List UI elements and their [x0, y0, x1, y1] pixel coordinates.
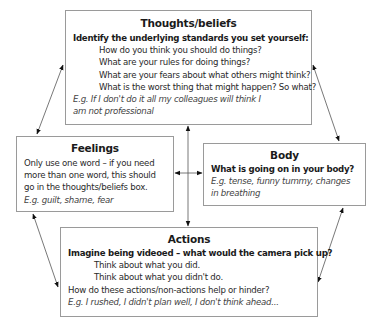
actions-box: Actions Imagine being videoed – what wou…	[60, 227, 318, 317]
thoughts-question: What is the worst thing that might happe…	[73, 81, 311, 93]
thoughts-beliefs-box: Thoughts/beliefs Identify the underlying…	[65, 10, 312, 125]
body-example: E.g. tense, funny tummy, changes	[211, 175, 365, 187]
body-title: Body	[211, 149, 365, 161]
thoughts-question: How do you think you should do things?	[73, 44, 311, 56]
body-subtitle: What is going on in your body?	[211, 163, 365, 175]
arrow-feelings-actions	[33, 214, 58, 287]
thoughts-subtitle: Identify the underlying standards you se…	[73, 32, 311, 44]
actions-prompt: Think about what you did.	[68, 259, 317, 271]
arrow-thoughts-feelings	[37, 65, 63, 134]
body-example: in breathing	[211, 187, 365, 199]
thoughts-title: Thoughts/beliefs	[73, 17, 311, 29]
feelings-text: more than one word, this should	[24, 169, 173, 181]
thoughts-question: What are your fears about what others mi…	[73, 69, 311, 81]
thoughts-question: What are your rules for doing things?	[73, 56, 311, 68]
actions-title: Actions	[68, 233, 317, 245]
actions-example: E.g. I rushed, I didn't plan well, I don…	[68, 296, 317, 308]
thoughts-example: am not professional	[73, 105, 311, 117]
feelings-box: Feelings Only use one word – if you need…	[16, 136, 174, 212]
actions-subtitle: Imagine being videoed – what would the c…	[68, 247, 317, 259]
feelings-title: Feelings	[24, 142, 173, 154]
arrow-body-actions	[318, 208, 343, 282]
actions-question: How do these actions/non-actions help or…	[68, 284, 317, 296]
feelings-text: go in the thoughts/beliefs box.	[24, 181, 173, 193]
thoughts-example: E.g. If I don't do it all my colleagues …	[73, 93, 311, 105]
arrow-thoughts-body	[313, 65, 339, 141]
body-box: Body What is going on in your body? E.g.…	[203, 143, 366, 206]
feelings-example: E.g. guilt, shame, fear	[24, 194, 173, 206]
actions-prompt: Think about what you didn't do.	[68, 271, 317, 283]
feelings-text: Only use one word – if you need	[24, 157, 173, 169]
